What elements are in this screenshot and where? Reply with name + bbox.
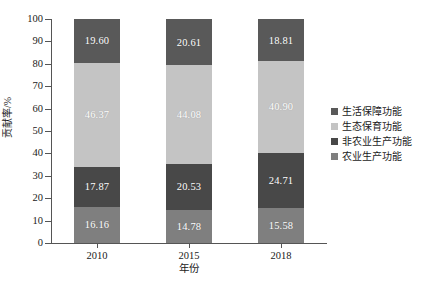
- bar-segment-value-label: 16.16: [85, 219, 110, 230]
- bar-segment: 20.61: [166, 19, 212, 65]
- bar-segment-value-label: 17.87: [85, 181, 110, 192]
- y-axis-tick: [45, 131, 51, 132]
- bar-segment: 46.37: [74, 63, 120, 167]
- chart-legend: 生活保障功能生态保育功能非农业生产功能农业生产功能: [331, 104, 430, 164]
- y-axis-tick: [45, 153, 51, 154]
- y-axis-tick-label: 100: [3, 14, 43, 24]
- bar-segment-value-label: 18.81: [269, 35, 294, 46]
- x-axis-tick-label: 2018: [246, 250, 316, 262]
- legend-swatch-icon: [331, 123, 338, 130]
- legend-swatch-icon: [331, 153, 338, 160]
- y-axis-tick-label: 80: [3, 59, 43, 69]
- bar-segment-value-label: 46.37: [85, 109, 110, 120]
- bar-segment: 40.90: [258, 61, 304, 153]
- bar-segment: 20.53: [166, 164, 212, 210]
- legend-item[interactable]: 农业生产功能: [331, 149, 430, 164]
- bar-segment-value-label: 19.60: [85, 35, 110, 46]
- bar-segment: 24.71: [258, 153, 304, 208]
- legend-item[interactable]: 生活保障功能: [331, 104, 430, 119]
- y-axis-tick: [45, 86, 51, 87]
- x-axis-title: 年份: [154, 263, 224, 275]
- legend-item-label: 生活保障功能: [342, 106, 402, 117]
- bar-segment-value-label: 40.90: [269, 101, 294, 112]
- y-axis-tick-label: 0: [3, 238, 43, 248]
- x-axis-tick-label: 2010: [62, 250, 132, 262]
- x-axis-tick: [281, 243, 282, 248]
- bar-segment-value-label: 14.78: [177, 221, 202, 232]
- legend-item-label: 农业生产功能: [342, 151, 402, 162]
- y-axis-tick: [45, 109, 51, 110]
- stacked-bar: 19.6046.3717.8716.16: [74, 19, 120, 243]
- bar-segment: 16.16: [74, 207, 120, 243]
- y-axis-tick-label: 90: [3, 36, 43, 46]
- x-axis-tick-label: 2015: [154, 250, 224, 262]
- y-axis-tick: [45, 64, 51, 65]
- legend-item[interactable]: 非农业生产功能: [331, 134, 430, 149]
- stacked-bar: 20.6144.0820.5314.78: [166, 19, 212, 243]
- y-axis-tick: [45, 221, 51, 222]
- y-axis-tick: [45, 243, 51, 244]
- bar-segment-value-label: 24.71: [269, 175, 294, 186]
- legend-item-label: 非农业生产功能: [342, 136, 412, 147]
- y-axis-tick: [45, 198, 51, 199]
- bar-segment: 15.58: [258, 208, 304, 243]
- y-axis-tick: [45, 41, 51, 42]
- stacked-bar: 18.8140.9024.7115.58: [258, 19, 304, 243]
- bar-segment: 14.78: [166, 210, 212, 243]
- y-axis-tick-label: 10: [3, 216, 43, 226]
- bar-segment: 18.81: [258, 19, 304, 61]
- y-axis-title-wrapper: 贡献率/%: [0, 0, 1, 283]
- bar-segment-value-label: 15.58: [269, 220, 294, 231]
- bar-segment-value-label: 20.53: [177, 181, 202, 192]
- bar-segment: 44.08: [166, 65, 212, 164]
- legend-swatch-icon: [331, 108, 338, 115]
- bar-segment-value-label: 44.08: [177, 109, 202, 120]
- y-axis-tick-label: 30: [3, 171, 43, 181]
- bar-segment: 17.87: [74, 167, 120, 207]
- x-axis-tick: [189, 243, 190, 248]
- x-axis-tick: [97, 243, 98, 248]
- y-axis-tick-label: 20: [3, 193, 43, 203]
- bar-segment: 19.60: [74, 19, 120, 63]
- bar-segment-value-label: 20.61: [177, 37, 202, 48]
- legend-item-label: 生态保育功能: [342, 121, 402, 132]
- plot-area: 19.6046.3717.8716.1620.6144.0820.5314.78…: [51, 19, 327, 243]
- y-axis-tick: [45, 176, 51, 177]
- y-axis-title: 贡献率/%: [2, 83, 13, 153]
- chart-figure: 1009080706050403020100 贡献率/% 19.6046.371…: [0, 0, 430, 283]
- y-axis-tick: [45, 19, 51, 20]
- legend-swatch-icon: [331, 138, 338, 145]
- legend-item[interactable]: 生态保育功能: [331, 119, 430, 134]
